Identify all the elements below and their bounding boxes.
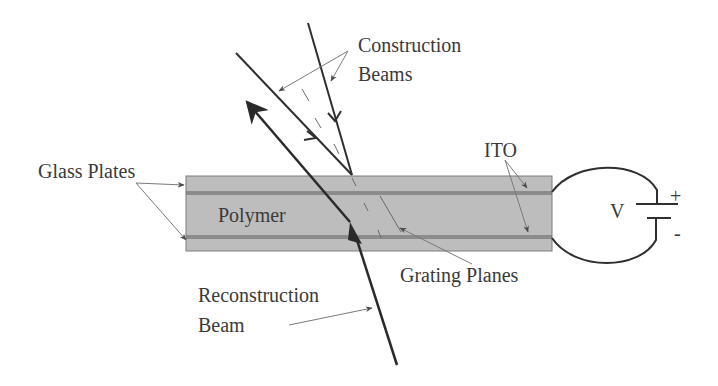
reconstruction-beam-label-line1: Reconstruction: [198, 284, 319, 306]
minus-sign: -: [674, 222, 681, 244]
diagram-graphics: [0, 0, 718, 386]
voltage-label: V: [610, 200, 624, 222]
ito-label: ITO: [484, 139, 517, 161]
reconstruction-beam-label-line2: Beam: [198, 314, 245, 336]
grating-planes-label: Grating Planes: [400, 264, 518, 286]
construction-beams-label-line1: Construction: [358, 34, 461, 56]
hologram-cell-diagram: Construction Beams Glass Plates Polymer …: [0, 0, 718, 386]
polymer-label: Polymer: [218, 204, 286, 226]
plus-sign: +: [670, 185, 681, 207]
construction-beams-label-line2: Beams: [358, 63, 412, 85]
glass-plates-label: Glass Plates: [38, 160, 135, 182]
